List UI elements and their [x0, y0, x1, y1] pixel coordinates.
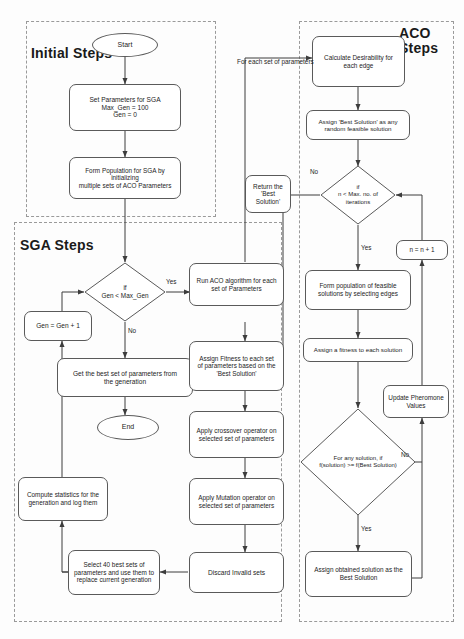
edge-label-gen-yes: Yes	[166, 278, 176, 285]
node-end[interactable]: End	[97, 415, 159, 440]
node-crossover[interactable]: Apply crossover operator on selected set…	[189, 411, 284, 458]
node-set-parameters[interactable]: Set Parameters for SGA Max_Gen = 100 Gen…	[69, 84, 181, 131]
node-compute-statistics[interactable]: Compute statistics for the generation an…	[18, 477, 108, 521]
node-assign-obtained-solution[interactable]: Assign obtained solution as the Best Sol…	[305, 551, 412, 597]
node-calculate-desirability[interactable]: Calculate Desirability for each edge	[312, 36, 405, 87]
node-start[interactable]: Start	[92, 33, 158, 57]
node-assign-fitness-solution[interactable]: Assign a fitness to each solution	[303, 338, 413, 362]
edge-label-solution-no: No	[401, 451, 409, 458]
flowchart-canvas: Initial Steps SGA Steps ACO Steps	[0, 0, 464, 639]
edge-label-iteration-yes: Yes	[361, 244, 371, 251]
region-aco-steps-label: ACO Steps	[399, 26, 457, 56]
edge-label-solution-yes: Yes	[361, 525, 371, 532]
node-solution-check[interactable]: For any solution, if f(solution) >= f(Be…	[300, 408, 416, 516]
node-discard-invalid[interactable]: Discard Invalid sets	[189, 552, 284, 593]
node-form-population[interactable]: Form Population for SGA by initializing …	[69, 157, 181, 199]
edge-label-iteration-no: No	[310, 168, 318, 175]
region-sga-steps-label: SGA Steps	[20, 238, 100, 253]
node-mutation[interactable]: Apply Mutation operator on selected set …	[189, 478, 284, 525]
node-gen-increment[interactable]: Gen = Gen + 1	[24, 311, 92, 341]
node-iteration-check[interactable]: if n < Max. no. of iterations	[320, 165, 396, 225]
node-gen-check[interactable]: if Gen < Max_Gen	[84, 262, 166, 322]
node-n-increment[interactable]: n = n + 1	[396, 240, 448, 260]
node-run-aco[interactable]: Run ACO algorithm for each set of Parame…	[189, 263, 284, 306]
node-get-best-params[interactable]: Get the best set of parameters from the …	[57, 358, 193, 397]
node-assign-best-random[interactable]: Assign 'Best Solution' as any random fea…	[306, 110, 410, 140]
node-select-best-sets[interactable]: Select 40 best sets of parameters and us…	[68, 550, 160, 595]
node-assign-fitness-params[interactable]: Assign Fitness to each set of parameters…	[189, 341, 284, 391]
edge-label-for-each-set: For each set of parameters	[237, 58, 307, 65]
node-return-best-solution[interactable]: Return the 'Best Solution'	[245, 175, 291, 213]
edge-label-gen-no: No	[128, 327, 136, 334]
node-form-feasible-solutions[interactable]: Form population of feasible solutions by…	[305, 270, 411, 310]
